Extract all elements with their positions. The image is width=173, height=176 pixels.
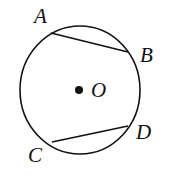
label-c: C bbox=[28, 145, 42, 166]
label-d: D bbox=[136, 122, 151, 143]
chord-ab bbox=[51, 33, 128, 52]
label-b: B bbox=[140, 45, 153, 66]
diagram-svg bbox=[0, 0, 173, 176]
circle-diagram: A B O D C bbox=[0, 0, 173, 176]
label-o: O bbox=[91, 80, 106, 101]
label-a: A bbox=[34, 6, 47, 27]
center-point bbox=[75, 86, 83, 94]
chord-cd bbox=[52, 126, 128, 142]
